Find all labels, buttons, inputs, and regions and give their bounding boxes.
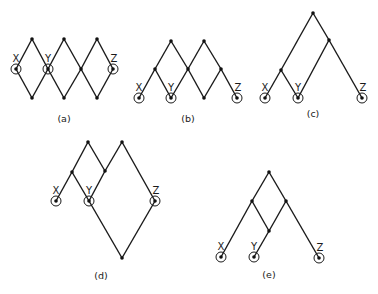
edge (155, 41, 171, 69)
panel-c: XYZ(c) (260, 11, 367, 119)
node-label-y: Y (250, 241, 258, 252)
edge (269, 201, 286, 231)
node (153, 67, 157, 71)
edge (286, 201, 319, 258)
node-label-z: Z (235, 82, 242, 93)
edge (313, 13, 329, 40)
node (137, 96, 141, 100)
node-label-y: Y (167, 82, 175, 93)
node-label-y: Y (294, 82, 302, 93)
edge (122, 201, 155, 258)
panel-caption: (c) (307, 108, 320, 119)
edge (88, 142, 105, 171)
node-label-x: X (13, 53, 20, 64)
node (263, 96, 267, 100)
edge (64, 39, 81, 69)
node (267, 229, 271, 233)
node (235, 96, 239, 100)
node (252, 255, 256, 259)
edge (171, 41, 188, 69)
node-label-x: X (262, 82, 269, 93)
node (14, 67, 18, 71)
node (62, 37, 66, 41)
panel-caption: (e) (262, 269, 275, 280)
edge (81, 39, 97, 69)
node (95, 96, 99, 100)
node (46, 67, 50, 71)
edge (281, 13, 313, 70)
panel-caption: (a) (57, 113, 70, 124)
node-label-z: Z (153, 185, 160, 196)
node (267, 170, 271, 174)
node (62, 96, 66, 100)
edge (252, 201, 269, 231)
edge (221, 201, 252, 257)
node (103, 169, 107, 173)
node (86, 140, 90, 144)
edge (105, 142, 122, 171)
edge (72, 142, 88, 172)
node (279, 68, 283, 72)
node-label-y: Y (85, 185, 93, 196)
edge (122, 142, 155, 201)
node (219, 67, 223, 71)
node (327, 38, 331, 42)
edge (64, 69, 81, 98)
panel-b: XYZ(b) (134, 39, 242, 124)
node (87, 199, 91, 203)
node-label-z: Z (317, 242, 324, 253)
edge (204, 41, 221, 69)
node (169, 39, 173, 43)
node (317, 256, 321, 260)
node-label-x: X (53, 185, 60, 196)
node (111, 67, 115, 71)
edge (252, 172, 269, 201)
edge (81, 69, 97, 98)
node-label-z: Z (111, 53, 118, 64)
lattice-diagram-figure: XYZ(a)XYZ(b)XYZ(c)XYZ(d)XYZ(e) (0, 0, 378, 294)
node (169, 96, 173, 100)
node (79, 67, 83, 71)
edge (269, 172, 286, 201)
node (250, 199, 254, 203)
node (120, 140, 124, 144)
node-label-x: X (136, 82, 143, 93)
edge (188, 41, 204, 69)
panel-caption: (d) (94, 270, 107, 281)
node (30, 37, 34, 41)
node-label-y: Y (44, 53, 52, 64)
node-label-z: Z (360, 82, 367, 93)
node (202, 96, 206, 100)
node (186, 67, 190, 71)
node (30, 96, 34, 100)
node (311, 11, 315, 15)
node (54, 199, 58, 203)
edge (298, 40, 329, 98)
panel-d: XYZ(d) (51, 140, 160, 281)
panel-a: XYZ(a) (11, 37, 118, 124)
node (219, 255, 223, 259)
panel-e: XYZ(e) (216, 170, 324, 280)
edge (188, 69, 204, 98)
node (120, 256, 124, 260)
node (95, 37, 99, 41)
panel-caption: (b) (181, 113, 194, 124)
node (296, 96, 300, 100)
edge (89, 201, 122, 258)
node (202, 39, 206, 43)
edge (204, 69, 221, 98)
edge (329, 40, 362, 98)
node (153, 199, 157, 203)
node (284, 199, 288, 203)
node (360, 96, 364, 100)
node-label-x: X (218, 241, 225, 252)
node (70, 170, 74, 174)
